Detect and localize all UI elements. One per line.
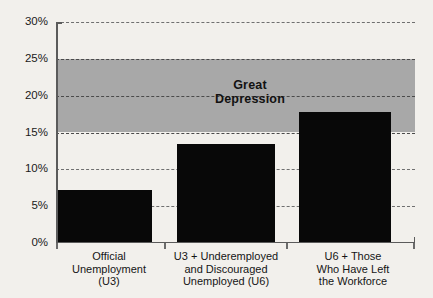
x-label-2-line-2: Who Have Left: [292, 263, 414, 276]
y-tick-label-0: 0%: [2, 237, 48, 248]
unemployment-bar-chart: 30% 25% 20% 15% 10% 5% 0% Great Depressi…: [0, 0, 433, 298]
x-axis-right-cap: [414, 237, 416, 243]
y-tick-label-30: 30%: [2, 16, 48, 27]
x-label-official-unemployment-u3: Official Unemployment (U3): [54, 250, 164, 288]
bar-u6-plus-left-workforce: [299, 112, 391, 243]
y-axis-labels: 30% 25% 20% 15% 10% 5% 0%: [0, 22, 52, 243]
x-label-0-line-2: Unemployment: [54, 263, 164, 276]
y-tick-label-10: 10%: [2, 163, 48, 174]
x-tick-3: [413, 243, 415, 249]
plot-area: Great Depression: [56, 22, 415, 243]
x-label-u6-plus-left-workforce: U6 + Those Who Have Left the Workforce: [292, 250, 414, 288]
x-tick-0: [56, 243, 58, 249]
y-tick-label-20: 20%: [2, 90, 48, 101]
great-depression-label-line-1: Great: [185, 78, 315, 92]
gridline-30: [56, 22, 415, 23]
bar-official-unemployment-u3: [58, 190, 152, 243]
x-label-u3-underemployed-discouraged-u6: U3 + Underemployed and Discouraged Unemp…: [162, 250, 290, 288]
gridline-25: [56, 59, 415, 60]
x-axis-line: [56, 242, 415, 244]
x-label-0-line-1: Official: [54, 250, 164, 263]
x-axis-category-labels: Official Unemployment (U3) U3 + Underemp…: [56, 250, 415, 294]
x-label-0-line-3: (U3): [54, 275, 164, 288]
x-tick-1: [164, 243, 166, 249]
x-label-1-line-1: U3 + Underemployed: [162, 250, 290, 263]
bar-u3-underemployed-discouraged-u6: [177, 144, 275, 243]
y-tick-label-15: 15%: [2, 127, 48, 138]
x-label-2-line-1: U6 + Those: [292, 250, 414, 263]
y-tick-label-5: 5%: [2, 200, 48, 211]
y-axis-top-cap: [56, 22, 62, 24]
great-depression-label-line-2: Depression: [185, 92, 315, 106]
x-label-1-line-3: Unemployed (U6): [162, 275, 290, 288]
y-axis-line: [56, 22, 58, 243]
great-depression-label: Great Depression: [185, 78, 315, 106]
x-label-1-line-2: and Discouraged: [162, 263, 290, 276]
x-tick-2: [286, 243, 288, 249]
y-tick-label-25: 25%: [2, 53, 48, 64]
x-label-2-line-3: the Workforce: [292, 275, 414, 288]
